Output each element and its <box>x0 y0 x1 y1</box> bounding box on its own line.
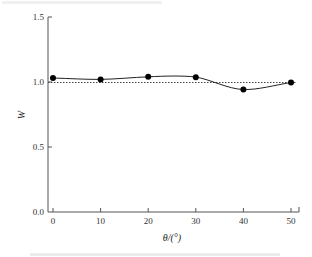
x-tick-label: 0 <box>51 216 56 226</box>
data-point <box>145 74 151 80</box>
data-points <box>50 74 294 93</box>
data-point <box>98 76 104 82</box>
line-chart: 1.5 1.0 0.5 0.0 W 0 10 20 30 40 50 θ/(°) <box>0 0 312 257</box>
x-axis-label: θ/(°) <box>163 232 182 244</box>
x-tick-label: 50 <box>287 216 297 226</box>
y-axis: 1.5 1.0 0.5 0.0 W <box>16 12 52 217</box>
y-axis-label: W <box>16 109 27 119</box>
x-tick-label: 30 <box>191 216 201 226</box>
data-point <box>240 87 246 93</box>
data-point <box>288 80 294 86</box>
x-tick-label: 40 <box>239 216 249 226</box>
x-tick-label: 10 <box>96 216 106 226</box>
y-tick-label: 0.5 <box>33 142 45 152</box>
data-point <box>50 75 56 81</box>
y-tick-label: 1.0 <box>33 77 45 87</box>
y-tick-label: 1.5 <box>33 12 45 22</box>
x-tick-label: 20 <box>144 216 154 226</box>
data-point <box>193 74 199 80</box>
x-axis: 0 10 20 30 40 50 θ/(°) <box>48 207 299 244</box>
y-tick-label: 0.0 <box>33 207 45 217</box>
